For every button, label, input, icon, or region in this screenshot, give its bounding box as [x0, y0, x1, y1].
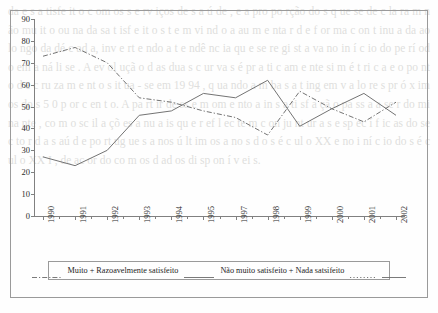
y-axis-tick-label: 90 — [8, 15, 30, 24]
y-axis-tick-label: 30 — [8, 146, 30, 155]
legend-swatch-solid — [184, 267, 214, 274]
legend-swatch-solid-trailing — [382, 267, 406, 274]
plot-area: 0102030405060708090 19901991199219931994… — [34, 19, 405, 217]
legend-swatch-dashdot — [32, 267, 62, 274]
chart-page: da e s a tisfe it o c om os s e rv iços … — [0, 0, 438, 313]
y-axis-tick-label: 0 — [8, 212, 30, 221]
legend-label-satisfied: Muito + Razoavelmente satisfeito — [68, 266, 179, 275]
y-axis-tick-label: 50 — [8, 103, 30, 112]
y-axis-tick-label: 80 — [8, 37, 30, 46]
y-axis-tick-label: 20 — [8, 168, 30, 177]
legend-swatch-dotted-trailing — [350, 267, 376, 274]
series-line-2 — [43, 80, 396, 165]
y-axis-tick-label: 40 — [8, 124, 30, 133]
y-axis-tick-label: 60 — [8, 81, 30, 90]
legend-label-unsatisfied: Não muito satisfeito + Nada satsifeito — [220, 266, 344, 275]
y-axis-tick-label: 70 — [8, 59, 30, 68]
series-line-1 — [43, 47, 396, 135]
chart-legend: Muito + Razoavelmente satisfeito Não mui… — [48, 261, 390, 280]
series-lines — [34, 19, 405, 217]
y-axis-tick-label: 10 — [8, 190, 30, 199]
